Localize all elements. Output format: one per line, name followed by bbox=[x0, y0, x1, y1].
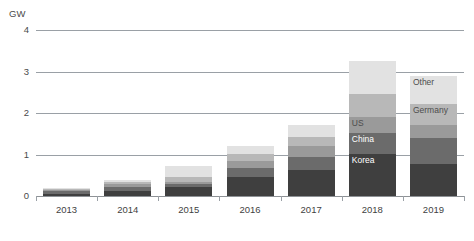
bar-segment-2013-us[interactable] bbox=[43, 190, 90, 192]
bar-2017[interactable] bbox=[288, 125, 335, 196]
x-axis-tick-mark bbox=[97, 196, 98, 201]
bar-segment-2016-china[interactable] bbox=[227, 168, 274, 177]
bar-segment-2014-china[interactable] bbox=[104, 187, 151, 191]
bar-segment-2013-other[interactable] bbox=[43, 188, 90, 189]
bar-2019[interactable]: GermanyOther bbox=[410, 76, 457, 196]
bar-2016[interactable] bbox=[227, 146, 274, 196]
bar-segment-2016-germany[interactable] bbox=[227, 154, 274, 161]
bar-segment-2017-other[interactable] bbox=[288, 125, 335, 137]
segment-label-china: China bbox=[352, 134, 374, 144]
bar-segment-2013-china[interactable] bbox=[43, 191, 90, 193]
bar-segment-2018-us[interactable]: US bbox=[349, 117, 396, 133]
bar-segment-2016-korea[interactable] bbox=[227, 177, 274, 196]
segment-label-korea: Korea bbox=[352, 155, 375, 165]
bar-segment-2017-us[interactable] bbox=[288, 146, 335, 157]
segment-label-us: US bbox=[352, 118, 364, 128]
x-axis-label-2014: 2014 bbox=[117, 204, 138, 215]
bar-segment-2015-germany[interactable] bbox=[165, 177, 212, 182]
bar-segment-2014-us[interactable] bbox=[104, 184, 151, 187]
y-axis-tick-label: 1 bbox=[24, 149, 29, 160]
bar-segment-2019-korea[interactable] bbox=[410, 164, 457, 196]
x-axis-label-2016: 2016 bbox=[239, 204, 260, 215]
y-axis-tick-label: 0 bbox=[24, 190, 29, 201]
bar-segment-2016-us[interactable] bbox=[227, 161, 274, 168]
segment-label-other: Other bbox=[413, 77, 434, 87]
bar-segment-2016-other[interactable] bbox=[227, 146, 274, 154]
bar-segment-2018-germany[interactable] bbox=[349, 94, 396, 117]
bar-segment-2013-germany[interactable] bbox=[43, 189, 90, 190]
bar-segment-2017-germany[interactable] bbox=[288, 137, 335, 146]
x-axis-label-2013: 2013 bbox=[56, 204, 77, 215]
x-axis-label-2017: 2017 bbox=[301, 204, 322, 215]
y-axis-tick-label: 2 bbox=[24, 107, 29, 118]
bar-segment-2019-other[interactable]: Other bbox=[410, 76, 457, 104]
bar-segment-2019-us[interactable] bbox=[410, 125, 457, 137]
x-axis-label-2018: 2018 bbox=[362, 204, 383, 215]
bar-segment-2014-other[interactable] bbox=[104, 180, 151, 182]
x-axis-tick-mark bbox=[158, 196, 159, 201]
x-axis-tick-mark bbox=[219, 196, 220, 201]
gridline-2: 2 bbox=[36, 113, 464, 114]
bar-2014[interactable] bbox=[104, 180, 151, 196]
bar-segment-2015-other[interactable] bbox=[165, 166, 212, 176]
bar-segment-2015-us[interactable] bbox=[165, 182, 212, 184]
x-axis-label-2019: 2019 bbox=[423, 204, 444, 215]
bar-2015[interactable] bbox=[165, 166, 212, 196]
bar-segment-2017-china[interactable] bbox=[288, 157, 335, 171]
bar-segment-2019-china[interactable] bbox=[410, 138, 457, 164]
bar-2018[interactable]: KoreaChinaUS bbox=[349, 61, 396, 196]
segment-label-germany: Germany bbox=[413, 105, 448, 115]
x-axis-label-2015: 2015 bbox=[178, 204, 199, 215]
bar-segment-2018-korea[interactable]: Korea bbox=[349, 154, 396, 196]
gridline-4: 4 bbox=[36, 30, 464, 31]
x-axis-tick-mark bbox=[36, 196, 37, 201]
bar-segment-2018-china[interactable]: China bbox=[349, 133, 396, 154]
bar-segment-2017-korea[interactable] bbox=[288, 170, 335, 196]
x-axis-tick-mark bbox=[403, 196, 404, 201]
gridline-3: 3 bbox=[36, 72, 464, 73]
y-axis-tick-label: 3 bbox=[24, 66, 29, 77]
stacked-bar-chart: GW 43210KoreaChinaUSGermanyOther 2013201… bbox=[0, 0, 474, 241]
bar-segment-2015-korea[interactable] bbox=[165, 187, 212, 196]
x-axis-baseline bbox=[36, 196, 464, 197]
y-axis-tick-label: 4 bbox=[24, 24, 29, 35]
x-axis-tick-mark bbox=[464, 196, 465, 201]
bar-segment-2018-other[interactable] bbox=[349, 61, 396, 94]
y-axis-unit-label: GW bbox=[9, 8, 26, 19]
bar-segment-2015-china[interactable] bbox=[165, 184, 212, 187]
bar-2013[interactable] bbox=[43, 188, 90, 196]
plot-area: 43210KoreaChinaUSGermanyOther bbox=[36, 30, 464, 196]
bar-segment-2014-germany[interactable] bbox=[104, 182, 151, 184]
bar-segment-2019-germany[interactable]: Germany bbox=[410, 104, 457, 126]
x-axis-tick-mark bbox=[342, 196, 343, 201]
x-axis-tick-mark bbox=[281, 196, 282, 201]
